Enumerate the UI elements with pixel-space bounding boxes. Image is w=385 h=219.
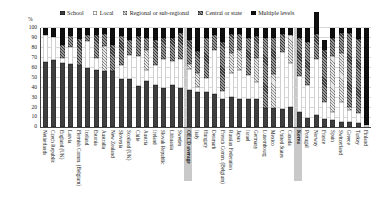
bar-segment-school bbox=[187, 90, 192, 127]
bar-segment-school bbox=[161, 88, 166, 127]
bar-segment-school bbox=[229, 97, 234, 127]
central-or-state-swatch-icon bbox=[198, 11, 203, 16]
bar-segment-local bbox=[170, 61, 175, 86]
bar-segment-multiple-levels bbox=[43, 28, 48, 35]
bar-slovenia bbox=[119, 28, 124, 127]
bar-segment-multiple-levels bbox=[77, 28, 82, 39]
bar-segment-regional-or-sub-regional bbox=[237, 50, 242, 70]
bar-segment-central-or-state bbox=[297, 38, 302, 76]
bar-segment-school bbox=[280, 109, 285, 127]
bar-segment-school bbox=[153, 85, 158, 127]
bar-segment-local bbox=[187, 69, 192, 91]
bar-segment-multiple-levels bbox=[364, 28, 369, 125]
bar-segment-central-or-state bbox=[195, 51, 200, 73]
bar-segment-multiple-levels bbox=[85, 28, 90, 35]
bar-australia bbox=[102, 28, 107, 127]
bar-segment-regional-or-sub-regional bbox=[229, 53, 234, 73]
bar-segment-multiple-levels bbox=[127, 28, 132, 40]
bar-segment-regional-or-sub-regional bbox=[254, 58, 259, 83]
bar-segment-local bbox=[161, 59, 166, 89]
x-axis-label-italy: Italy bbox=[193, 130, 199, 140]
bar-segment-local bbox=[51, 37, 56, 60]
y-tick-label-30: 30 bbox=[20, 95, 37, 101]
bar-segment-school bbox=[136, 86, 141, 127]
bar-germany bbox=[254, 28, 259, 127]
bar-segment-local bbox=[204, 78, 209, 93]
x-axis-label-denmark: Denmark bbox=[210, 130, 216, 149]
bar-denmark bbox=[212, 28, 217, 127]
bar-segment-regional-or-sub-regional bbox=[144, 50, 149, 70]
bar-spain bbox=[330, 28, 335, 127]
bar-segment-central-or-state bbox=[330, 38, 335, 56]
bar-segment-school bbox=[212, 94, 217, 127]
bar-segment-multiple-levels bbox=[356, 28, 361, 39]
bar-segment-local bbox=[153, 65, 158, 86]
legend-item-local: Local bbox=[93, 10, 114, 16]
bar-segment-central-or-state bbox=[60, 45, 65, 58]
bar-segment-multiple-levels bbox=[204, 28, 209, 38]
bar-estonia bbox=[94, 28, 99, 127]
bar-segment-regional-or-sub-regional bbox=[288, 35, 293, 63]
bar-segment-multiple-levels bbox=[136, 28, 141, 36]
bar-hungary bbox=[204, 28, 209, 127]
bar-segment-central-or-state bbox=[144, 38, 149, 50]
x-axis-label-scotland-uk: Scotland (UK) bbox=[126, 130, 132, 160]
x-axis-label-switzerland: Switzerland bbox=[337, 130, 343, 155]
bar-segment-local bbox=[229, 73, 234, 98]
chart-legend: SchoolLocalRegional or sub-regionalCentr… bbox=[60, 10, 294, 16]
bar-lithuania bbox=[170, 28, 175, 127]
bar-sweden bbox=[178, 28, 183, 127]
bar-segment-local bbox=[288, 63, 293, 108]
bar-segment-school bbox=[347, 122, 352, 127]
bar-segment-multiple-levels bbox=[330, 28, 335, 38]
bar-segment-multiple-levels bbox=[119, 28, 124, 36]
bar-segment-central-or-state bbox=[187, 40, 192, 64]
bar-segment-central-or-state bbox=[229, 34, 234, 53]
x-axis-label-slovenia: Slovenia bbox=[117, 130, 123, 148]
bar-segment-school bbox=[178, 88, 183, 127]
bar-united-states bbox=[280, 28, 285, 127]
bar-segment-local bbox=[314, 59, 319, 115]
bar-segment-multiple-levels bbox=[322, 40, 327, 50]
bar-austria bbox=[144, 28, 149, 127]
x-axis-label-french-comm-belgium: French Comm. (Belgium) bbox=[219, 130, 225, 184]
legend-label: Regional or sub-regional bbox=[130, 10, 190, 16]
plot-area bbox=[40, 28, 371, 128]
legend-item-regional-or-sub-regional: Regional or sub-regional bbox=[123, 10, 190, 16]
legend-item-central-or-state: Central or state bbox=[198, 10, 242, 16]
bar-segment-central-or-state bbox=[280, 34, 285, 52]
legend-label: Multiple levels bbox=[258, 10, 294, 16]
y-tick-label-60: 60 bbox=[20, 65, 37, 71]
bar-segment-local bbox=[297, 76, 302, 113]
bar-iceland bbox=[85, 28, 90, 127]
x-axis-label-portugal: Portugal bbox=[303, 130, 309, 148]
x-axis-label-united-states: United States bbox=[278, 130, 284, 158]
x-axis-label-mexico: Mexico bbox=[270, 130, 276, 146]
y-tick-label-100: 100 bbox=[20, 25, 37, 31]
bar-segment-school bbox=[237, 99, 242, 127]
bar-segment-local bbox=[85, 41, 90, 68]
x-axis-label-luxembourg: Luxembourg bbox=[261, 130, 267, 157]
bar-segment-multiple-levels bbox=[314, 12, 319, 34]
x-axis-label-france: France bbox=[320, 130, 326, 144]
x-axis-label-spain: Spain bbox=[329, 130, 335, 142]
y-tick-label-10: 10 bbox=[20, 114, 37, 120]
x-axis-label-england-uk: England (UK) bbox=[58, 130, 64, 160]
bar-segment-local bbox=[127, 55, 132, 80]
bar-segment-school bbox=[305, 118, 310, 127]
x-axis-label-czech-republic: Czech Republic bbox=[50, 130, 56, 163]
x-axis-label-norway: Norway bbox=[312, 130, 318, 147]
bar-segment-school bbox=[144, 81, 149, 127]
bar-segment-school bbox=[263, 108, 268, 127]
y-tick-label-50: 50 bbox=[20, 75, 37, 81]
bar-segment-local bbox=[356, 113, 361, 123]
x-axis-label-oecd-average: OECD average bbox=[185, 130, 191, 164]
bar-segment-central-or-state bbox=[119, 36, 124, 65]
local-swatch-icon bbox=[93, 11, 98, 16]
bar-segment-multiple-levels bbox=[170, 28, 175, 38]
bar-segment-school bbox=[127, 79, 132, 127]
bar-scotland-uk bbox=[127, 28, 132, 127]
bar-segment-multiple-levels bbox=[297, 28, 302, 38]
bar-segment-school bbox=[246, 99, 251, 127]
bar-segment-regional-or-sub-regional bbox=[271, 74, 276, 109]
